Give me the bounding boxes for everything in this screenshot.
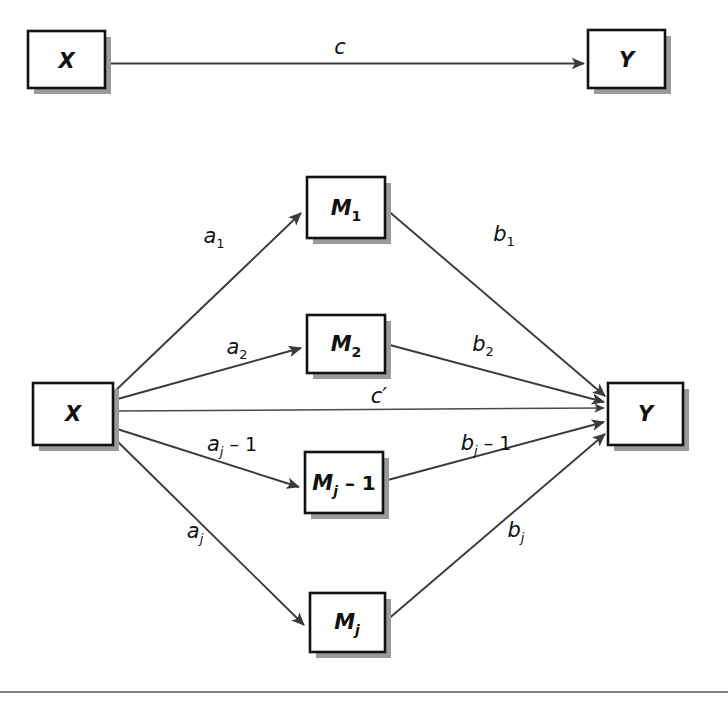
node-label-y-bottom: Y [638,402,655,426]
edge-label-b2: b2 [472,332,494,359]
node-mj-minus-1: Mj – 1 [305,452,389,519]
edge-label-bj: bj [508,518,525,545]
edge-aj: aj [114,438,304,625]
node-label-x-top: X [56,49,76,73]
edge-label-a2: a2 [226,335,247,362]
node-label-mj-minus-1: Mj – 1 [312,471,376,499]
edge-label-cprime: c′ [371,384,388,408]
path-diagram-figure: c X Y a1 a2 [0,0,728,703]
edge-label-bj-minus-1: bj – 1 [461,431,512,458]
edge-label-aj-minus-1: aj – 1 [207,432,257,459]
edge-label-c: c [334,35,346,59]
edge-b1: b1 [386,209,605,396]
node-y-top: Y [588,30,671,94]
edge-aj-minus-1: aj – 1 [114,428,299,487]
node-m2: M2 [307,315,391,379]
edge-cprime: c′ [114,384,604,411]
edge-bj: bj [386,434,605,621]
node-m1: M1 [307,177,391,244]
node-label-x-bottom: X [63,402,83,426]
node-x-bottom: X [33,383,119,451]
edge-label-b1: b1 [493,222,515,249]
node-label-y-top: Y [619,48,636,72]
node-y-bottom: Y [608,383,689,451]
edge-label-a1: a1 [203,224,224,251]
panel-multiple-mediator-model: a1 a2 c′ aj – 1 aj [33,177,689,658]
edge-a1: a1 [114,213,301,392]
panel-total-effect-model: c X Y [28,30,671,94]
node-mj: Mj [310,593,391,658]
node-x-top: X [28,31,111,94]
edge-a2: a2 [114,335,301,400]
edge-c: c [106,35,584,64]
edge-bj-minus-1: bj – 1 [384,422,604,481]
